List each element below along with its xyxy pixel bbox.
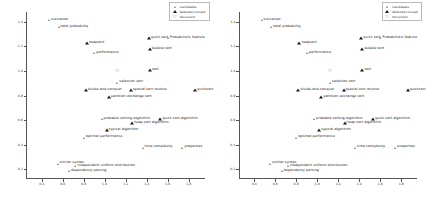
point-label: time complexity — [357, 144, 385, 148]
point-label: independent uniform distribution — [290, 163, 348, 167]
point-label: total probability — [61, 24, 89, 28]
candidate-marker[interactable] — [83, 137, 85, 139]
y-axis-tick-label: 0.4 — [230, 143, 235, 147]
point-label: quick sort — [363, 35, 380, 39]
point-label: bubble sort — [364, 46, 384, 50]
point-label: performance — [96, 50, 118, 54]
candidate-marker[interactable] — [181, 147, 183, 149]
point-label: total probability — [273, 24, 301, 28]
document-marker[interactable]: ☆ — [115, 68, 119, 73]
legend-label: Selected concept — [180, 10, 206, 14]
candidate-marker[interactable] — [394, 147, 396, 149]
legend-item[interactable]: ☆Document — [172, 15, 205, 19]
candidate-marker[interactable] — [306, 52, 308, 54]
y-axis-line — [26, 12, 27, 179]
y-axis-tick — [236, 46, 239, 47]
x-axis-tick-label: 1.8 — [186, 182, 191, 186]
point-label: optimal performance — [86, 134, 123, 138]
marker-glyph: ☆ — [172, 14, 176, 19]
y-axis-tick-label: 1.2 — [18, 44, 23, 48]
y-axis-tick-label: 0.6 — [230, 118, 235, 122]
point-label: heap sort algorithm — [347, 120, 382, 124]
y-axis-tick — [236, 145, 239, 146]
candidate-marker[interactable] — [270, 26, 272, 28]
legend-label: Document — [392, 15, 407, 19]
x-axis-tick-label: 1.2 — [123, 182, 128, 186]
candidate-marker[interactable] — [68, 170, 70, 172]
y-axis-tick — [24, 46, 27, 47]
y-axis-tick — [236, 169, 239, 170]
point-label: successor — [264, 17, 281, 21]
point-label: quick sort algorithm — [375, 116, 410, 120]
candidates-icon — [172, 6, 177, 8]
candidate-marker[interactable] — [101, 118, 103, 120]
point-label: quick sort algorithm — [162, 116, 197, 120]
candidate-marker[interactable] — [57, 163, 59, 165]
candidate-marker[interactable] — [167, 37, 169, 39]
y-axis-tick — [236, 71, 239, 72]
candidate-marker[interactable] — [58, 26, 60, 28]
point-label: performance — [309, 50, 331, 54]
x-axis-tick-label: 1.8 — [399, 182, 404, 186]
point-label: special sort routine — [345, 87, 379, 91]
y-axis-tick-label: 0.6 — [18, 118, 23, 122]
candidate-marker[interactable] — [295, 137, 297, 139]
x-axis-tick-label: 1.6 — [165, 182, 170, 186]
legend-item[interactable]: Candidates — [172, 5, 205, 9]
point-label: divide-and-conquer — [300, 87, 334, 91]
point-label: independent uniform distribution — [77, 163, 135, 167]
y-axis-tick — [236, 120, 239, 121]
candidate-marker[interactable] — [281, 170, 283, 172]
point-label: Probabilistic feature — [382, 35, 417, 39]
plot-area-left: 0.20.40.60.81.01.21.40.40.60.81.01.21.41… — [26, 12, 205, 179]
x-axis-tick-label: 0.8 — [294, 182, 299, 186]
point-label: dependency parsing — [284, 168, 320, 172]
legend-label: Candidates — [392, 5, 409, 9]
point-label: optimal performance — [298, 134, 335, 138]
y-axis-tick-label: 0.8 — [230, 94, 235, 98]
y-axis-tick-label: 1.2 — [230, 44, 235, 48]
candidate-marker[interactable] — [93, 52, 95, 54]
point-label: time complexity — [145, 144, 173, 148]
point-label: special sort routine — [133, 87, 167, 91]
x-axis-tick-label: 0.4 — [252, 182, 257, 186]
point-label: selection sort — [119, 79, 143, 83]
y-axis-tick-label: 1.4 — [18, 20, 23, 24]
y-axis-tick — [24, 22, 27, 23]
legend-label: Selected concept — [392, 10, 418, 14]
candidates-icon — [385, 6, 390, 8]
point-label: selection sort — [332, 79, 356, 83]
document-marker[interactable]: ☆ — [328, 68, 332, 73]
y-axis-tick-label: 1.0 — [18, 69, 23, 73]
candidate-marker[interactable] — [116, 82, 118, 84]
point-label: properties — [397, 144, 415, 148]
point-label: partition exchange sort — [323, 94, 364, 98]
candidate-marker[interactable] — [48, 19, 50, 21]
candidate-marker[interactable] — [313, 118, 315, 120]
point-label: quick sort — [151, 35, 168, 39]
y-axis-tick — [24, 145, 27, 146]
legend-item[interactable]: Candidates — [385, 5, 418, 9]
candidate-marker[interactable] — [269, 163, 271, 165]
legend-item[interactable]: Selected concept — [172, 10, 205, 14]
point-label: properties — [184, 144, 202, 148]
x-axis-tick-label: 0.4 — [39, 182, 44, 186]
point-label: heap sort algorithm — [134, 120, 169, 124]
x-axis-tick-label: 1.0 — [315, 182, 320, 186]
right-panel: 0.20.40.60.81.01.21.40.40.60.81.01.21.41… — [213, 0, 426, 201]
legend-item[interactable]: Selected concept — [385, 10, 418, 14]
candidate-marker[interactable] — [142, 147, 144, 149]
x-axis-tick-label: 1.0 — [102, 182, 107, 186]
y-axis-line — [239, 12, 240, 179]
candidate-marker[interactable] — [379, 37, 381, 39]
legend-label: Document — [180, 15, 195, 19]
legend-item[interactable]: ☆Document — [385, 15, 418, 19]
point-label: quicksort — [410, 87, 426, 91]
legend-label: Candidates — [180, 5, 197, 9]
x-axis-tick-label: 0.6 — [60, 182, 65, 186]
candidate-marker[interactable] — [354, 147, 356, 149]
y-axis-tick — [24, 96, 27, 97]
candidate-marker[interactable] — [261, 19, 263, 21]
candidate-marker[interactable] — [329, 82, 331, 84]
x-axis-tick-label: 0.8 — [81, 182, 86, 186]
